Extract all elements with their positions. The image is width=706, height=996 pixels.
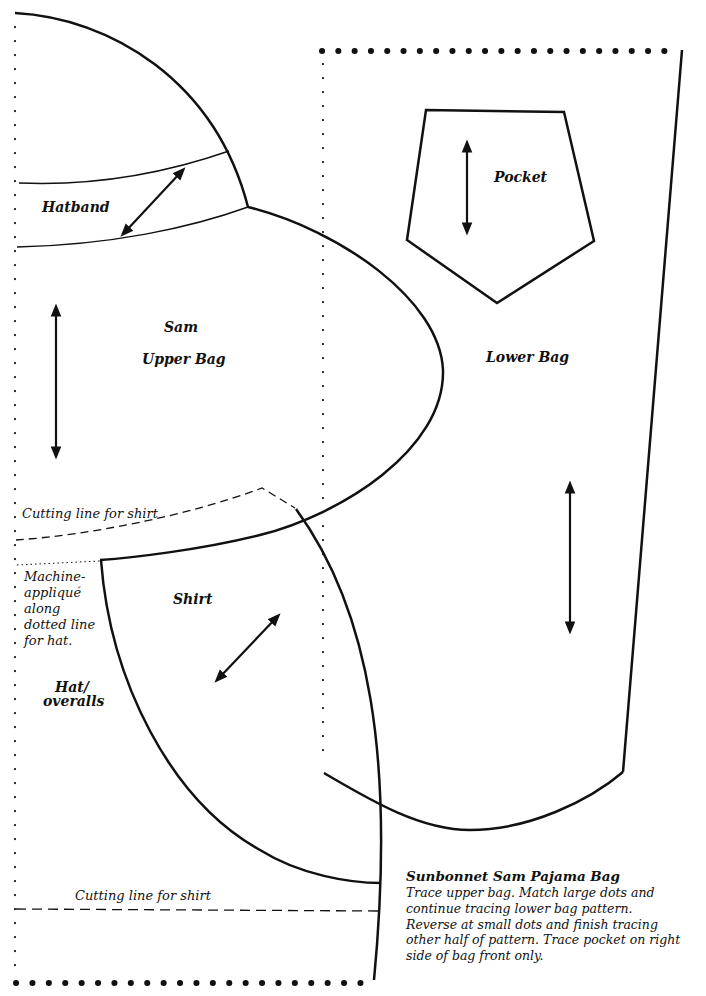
instructions-line: other half of pattern. Trace pocket on r… (406, 932, 680, 948)
hat-crown-outline (15, 13, 248, 207)
applique-note-line: dotted line (24, 617, 95, 633)
pattern-sheet (0, 0, 706, 996)
hat-overalls-label-2: overalls (43, 694, 104, 708)
applique-note-line: appliqué (24, 585, 95, 601)
hatband-top-line (19, 151, 229, 183)
applique-note-line: for hat. (24, 633, 95, 649)
shirt-grainline-arrow (219, 618, 276, 678)
lower-bag-bottom-outline (324, 772, 623, 830)
applique-note-line: along (24, 601, 95, 617)
applique-note: Machine- appliqué along dotted line for … (24, 569, 95, 649)
instructions-heading: Sunbonnet Sam Pajama Bag (406, 868, 680, 885)
hat-overalls-label-1: Hat/ (55, 680, 89, 694)
lower-bag-label: Lower Bag (486, 350, 569, 364)
pocket-label: Pocket (494, 170, 547, 184)
upper-bag-label: Upper Bag (142, 352, 226, 366)
lower-bag-right-edge (623, 50, 682, 772)
shirt-label: Shirt (173, 592, 212, 606)
instructions-line: Trace upper bag. Match large dots and (406, 885, 680, 901)
hatband-label: Hatband (42, 200, 110, 214)
applique-note-line: Machine- (24, 569, 95, 585)
lower-cutting-line (16, 909, 380, 911)
instructions-line: side of bag front only. (406, 948, 680, 964)
upper-cutting-line-label: Cutting line for shirt (22, 507, 158, 520)
pocket-outline (407, 110, 594, 303)
upper-bag-label-sam: Sam (164, 320, 198, 334)
shirt-right-outline (296, 509, 381, 980)
instructions-block: Sunbonnet Sam Pajama Bag Trace upper bag… (406, 868, 680, 964)
instructions-line: Reverse at small dots and finish tracing (406, 917, 680, 933)
lower-cutting-line-label: Cutting line for shirt (75, 889, 211, 902)
hatband-grainline-arrow (125, 172, 181, 232)
shirt-left-outline (101, 560, 381, 883)
instructions-line: continue tracing lower bag pattern. (406, 901, 680, 917)
applique-dotted-line (17, 561, 100, 565)
